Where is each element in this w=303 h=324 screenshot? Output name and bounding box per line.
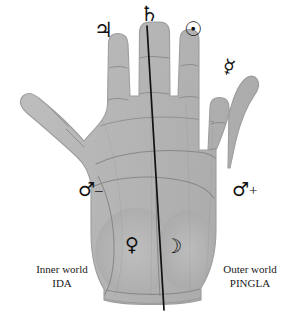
symbol-mars-negative: ♂– [78, 180, 103, 199]
palmistry-figure: ♃ ♄ ☉ ☿ ♂– ♂+ ♀ ☽ Inner world IDA Outer … [0, 0, 303, 324]
caption-outer-world-line1: Outer world [200, 262, 300, 276]
caption-outer-world: Outer world PINGLA [200, 262, 300, 290]
symbol-saturn: ♄ [140, 4, 159, 25]
symbol-mars-negative-sign: – [95, 181, 103, 198]
symbol-mars-positive-sign: + [249, 181, 258, 198]
symbol-moon: ☽ [164, 236, 182, 256]
symbol-mars-negative-glyph: ♂ [78, 178, 95, 200]
symbol-mars-positive-glyph: ♂ [232, 178, 249, 200]
symbol-sun: ☉ [184, 19, 202, 39]
caption-outer-world-line2: PINGLA [200, 276, 300, 290]
symbol-jupiter: ♃ [94, 20, 113, 41]
symbol-venus: ♀ [125, 235, 139, 254]
caption-inner-world: Inner world IDA [8, 262, 116, 290]
symbol-mars-positive: ♂+ [232, 180, 258, 199]
caption-inner-world-line1: Inner world [8, 262, 116, 276]
caption-inner-world-line2: IDA [8, 276, 116, 290]
